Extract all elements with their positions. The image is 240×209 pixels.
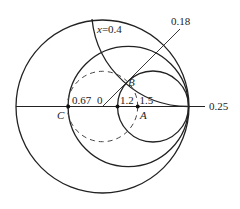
smith-chart: x=0.4 0.18 0.25 0.67 0 1.2 1.5 A B C <box>0 0 240 209</box>
label-1.2: 1.2 <box>120 94 134 106</box>
label-1.5: 1.5 <box>140 94 154 106</box>
label-point-a: A <box>139 109 147 121</box>
label-0.25: 0.25 <box>209 100 229 112</box>
point-c-dot <box>66 105 70 109</box>
label-reactance: x=0.4 <box>96 23 122 35</box>
label-0.67: 0.67 <box>72 94 92 106</box>
label-point-b: B <box>128 76 135 88</box>
label-point-c: C <box>57 109 65 121</box>
label-origin: 0 <box>97 94 103 106</box>
point-1.2-dot <box>116 105 120 109</box>
label-reactance-value: =0.4 <box>102 23 122 35</box>
label-0.18: 0.18 <box>171 15 191 27</box>
